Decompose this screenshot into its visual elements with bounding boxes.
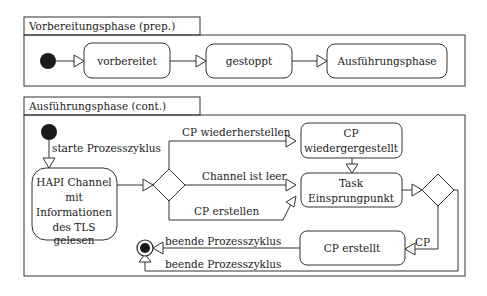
partition-prep-title: Vorbereitungsphase (prep.): [28, 20, 175, 32]
state-hapi-line5: gelesen: [54, 234, 95, 246]
edge-label-channel-leer: Channel ist leer: [202, 170, 288, 182]
state-hapi-line2: mit: [65, 191, 83, 203]
state-cp-erstellt-label: CP erstellt: [324, 242, 381, 254]
state-vorbereitet-label: vorbereitet: [96, 55, 157, 67]
state-ausfuehrungsphase-label: Ausführungsphase: [336, 55, 436, 67]
initial-node-icon: [41, 124, 57, 140]
edge-label-starte: starte Prozesszyklus: [52, 142, 161, 154]
state-hapi-line4: des TLS: [53, 221, 96, 233]
arrowhead-icon: [196, 55, 206, 67]
arrowhead-icon: [405, 243, 415, 255]
state-hapi-line3: Informationen: [36, 206, 112, 218]
arrowhead-icon: [153, 242, 163, 254]
final-node-inner-icon: [140, 243, 150, 253]
state-task-line2: Einsprungpunkt: [308, 192, 395, 204]
initial-node-icon: [40, 53, 56, 69]
edge-label-cp-wiederherstellen: CP wiederherstellen: [182, 126, 291, 138]
state-gestoppt-label: gestoppt: [226, 55, 273, 67]
arrowhead-icon: [346, 164, 358, 173]
edge-label-cp-erstellen: CP erstellen: [194, 205, 259, 217]
edge-label-beende-1: beende Prozesszyklus: [165, 235, 281, 247]
arrowhead-icon: [412, 184, 422, 196]
state-task-line1: Task: [339, 177, 364, 189]
edge-label-beende-2: beende Prozesszyklus: [165, 258, 281, 270]
activity-diagram: Vorbereitungsphase (prep.) vorbereitet g…: [0, 0, 487, 296]
decision-node-1: [153, 169, 185, 201]
arrowhead-icon: [43, 158, 55, 168]
arrowhead-icon: [74, 55, 84, 67]
state-cp-restored-line2: wiedergergestellt: [304, 142, 399, 154]
state-cp-restored-line1: CP: [343, 127, 358, 139]
edge-label-cp: CP: [415, 236, 430, 248]
partition-cont-title: Ausführungsphase (cont.): [28, 100, 166, 112]
state-hapi-line1: HAPI Channel: [36, 176, 112, 188]
arrowhead-icon: [143, 179, 153, 191]
partition-cont: Ausführungsphase (cont.) starte Prozessz…: [24, 97, 465, 276]
decision-node-2: [422, 174, 454, 206]
partition-prep: Vorbereitungsphase (prep.) vorbereitet g…: [24, 17, 465, 86]
arrowhead-icon: [286, 179, 296, 191]
arrowhead-icon: [286, 196, 296, 207]
arrowhead-icon: [317, 55, 327, 67]
